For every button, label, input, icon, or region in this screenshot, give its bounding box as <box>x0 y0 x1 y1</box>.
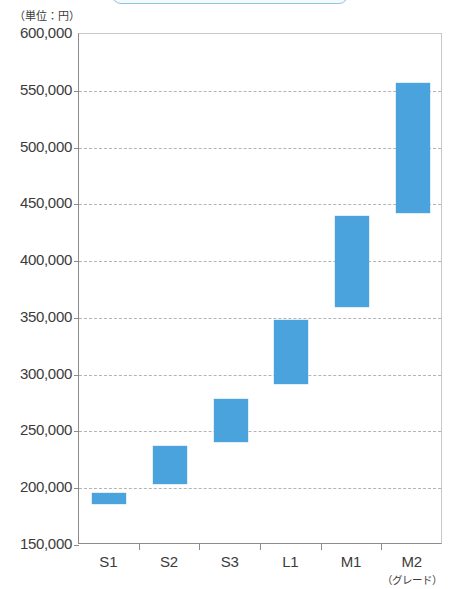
gridline <box>79 431 441 432</box>
gridline <box>79 375 441 376</box>
y-tick-label: 450,000 <box>0 194 72 211</box>
y-tick-mark <box>74 91 79 92</box>
y-tick-label: 400,000 <box>0 251 72 268</box>
y-tick-mark <box>74 488 79 489</box>
y-tick-mark <box>74 148 79 149</box>
y-tick-label: 250,000 <box>0 421 72 438</box>
x-tick-mark <box>260 544 261 550</box>
gridline <box>79 204 441 205</box>
plot-area <box>78 33 442 544</box>
bar-s1 <box>92 493 126 504</box>
x-tick-mark <box>139 544 140 550</box>
bar-s2 <box>153 446 187 483</box>
x-tick-label-s3: S3 <box>221 553 239 570</box>
x-tick-label-m2: M2 <box>401 553 421 570</box>
chart-title-capsule: グレード別 価格帯 <box>112 0 348 4</box>
bar-m1 <box>335 216 369 307</box>
x-tick-mark <box>199 544 200 550</box>
x-tick-label-s1: S1 <box>99 553 117 570</box>
y-tick-mark <box>74 261 79 262</box>
gridline <box>79 488 441 489</box>
bar-s3 <box>214 399 248 442</box>
x-axis-labels: S1S2S3L1M1M2（グレード） <box>78 544 442 589</box>
gridline <box>79 261 441 262</box>
y-axis-unit-label: （単位：円） <box>14 7 80 23</box>
y-tick-label: 500,000 <box>0 138 72 155</box>
y-tick-label: 350,000 <box>0 308 72 325</box>
x-tick-label-m1: M1 <box>341 553 361 570</box>
y-tick-label: 550,000 <box>0 81 72 98</box>
x-axis-name: （グレード） <box>382 572 442 587</box>
x-tick-mark <box>381 544 382 550</box>
bar-m2 <box>396 83 430 214</box>
bar-l1 <box>274 320 308 384</box>
gridline <box>79 148 441 149</box>
y-tick-mark <box>74 204 79 205</box>
x-tick-mark <box>321 544 322 550</box>
x-tick-label-s2: S2 <box>160 553 178 570</box>
y-tick-label: 150,000 <box>0 535 72 552</box>
y-tick-label: 200,000 <box>0 478 72 495</box>
chart-page: { "title_capsule": { "text": "グレード別 価格帯"… <box>0 0 452 589</box>
y-tick-label: 600,000 <box>0 24 72 41</box>
y-tick-mark <box>74 318 79 319</box>
chart-title-text: グレード別 価格帯 <box>113 0 347 4</box>
gridline <box>79 91 441 92</box>
y-tick-label: 300,000 <box>0 365 72 382</box>
gridline <box>79 318 441 319</box>
y-tick-mark <box>74 431 79 432</box>
x-tick-label-l1: L1 <box>282 553 298 570</box>
y-tick-mark <box>74 375 79 376</box>
